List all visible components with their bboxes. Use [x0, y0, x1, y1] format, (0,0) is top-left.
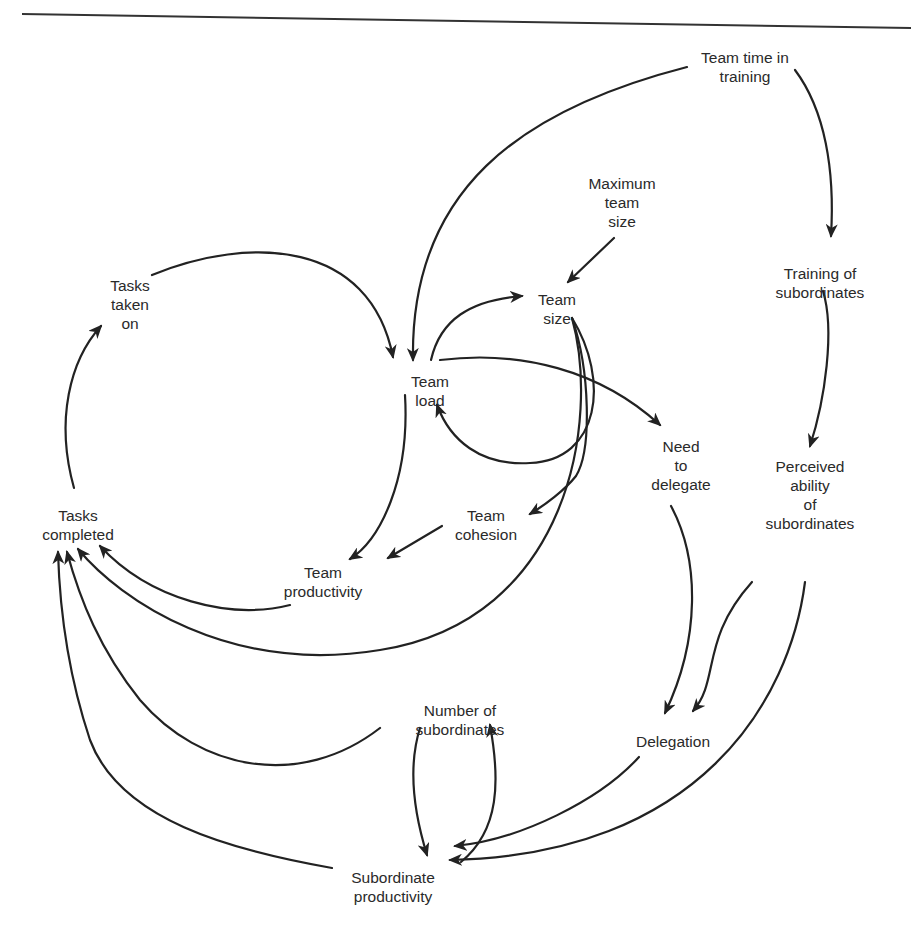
- edge-tasks_taken_on-to-team_load: [152, 252, 393, 357]
- edge-training_subordinates-to-perceived_ability: [810, 291, 828, 446]
- node-max-team-size: Maximum team size: [588, 174, 655, 231]
- node-tasks-completed: Tasks completed: [42, 506, 114, 544]
- node-team-time-training: Team time in training: [701, 48, 789, 86]
- edge-subordinate_productivity-to-number_subordinates: [461, 725, 496, 862]
- node-perceived-ability: Perceived ability of subordinates: [766, 457, 855, 533]
- node-tasks-taken-on: Tasks taken on: [110, 276, 150, 333]
- node-delegation: Delegation: [636, 732, 710, 751]
- node-subordinate-productivity: Subordinate productivity: [351, 868, 435, 906]
- edge-max_team_size-to-team_size: [568, 238, 614, 282]
- edge-need_to_delegate-to-delegation: [665, 506, 692, 713]
- edge-team_time_training-to-training_subordinates: [795, 70, 832, 236]
- edge-team_load-to-team_productivity: [350, 395, 406, 559]
- edge-team_load-to-team_size: [431, 296, 522, 360]
- edge-team_cohesion-to-team_productivity: [388, 526, 442, 558]
- node-team-load: Team load: [411, 372, 449, 410]
- edge-delegation-to-subordinate_productivity: [455, 757, 639, 846]
- node-team-size: Team size: [538, 290, 576, 328]
- node-team-productivity: Team productivity: [284, 563, 362, 601]
- node-need-to-delegate: Need to delegate: [651, 437, 710, 494]
- edge-group: [58, 67, 832, 868]
- edge-perceived_ability-to-delegation: [693, 582, 752, 711]
- edge-tasks_completed-to-tasks_taken_on: [66, 326, 101, 488]
- node-number-subordinates: Number of subordinates: [416, 701, 505, 739]
- edge-team_size-to-team_load: [437, 318, 594, 463]
- node-team-cohesion: Team cohesion: [455, 506, 517, 544]
- edge-number_subordinates-to-subordinate_productivity: [413, 728, 427, 855]
- edge-team_size-to-tasks_completed: [78, 318, 581, 655]
- node-training-subordinates: Training of subordinates: [776, 264, 865, 302]
- edge-team_productivity-to-tasks_completed: [100, 546, 290, 610]
- edge-team_load-to-need_to_delegate: [440, 358, 660, 425]
